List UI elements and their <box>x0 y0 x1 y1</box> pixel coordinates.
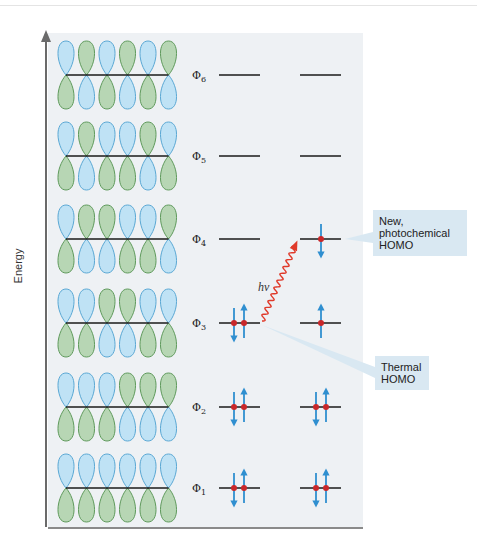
p-orbital-lobe-bottom <box>119 156 135 190</box>
p-orbital-lobe-bottom <box>99 239 115 273</box>
p-orbital-lobe-top <box>99 205 115 239</box>
p-orbital-lobe-top <box>160 289 176 323</box>
p-orbital-lobe-top <box>99 289 115 323</box>
p-orbital-lobe-bottom <box>99 75 115 109</box>
p-orbital-lobe-top <box>99 41 115 75</box>
p-orbital-lobe-bottom <box>140 407 156 441</box>
orbital-label: Φ2 <box>192 401 206 416</box>
p-orbital-lobe-bottom <box>78 156 94 190</box>
callout-line: HOMO <box>381 373 423 385</box>
p-orbital-lobe-bottom <box>58 75 74 109</box>
p-orbital-lobe-top <box>99 122 115 156</box>
p-orbital-lobe-top <box>140 373 156 407</box>
p-orbital-lobe-bottom <box>160 323 176 357</box>
p-orbital-lobe-top <box>78 454 94 488</box>
p-orbital-lobe-top <box>119 454 135 488</box>
callout-leader-thermal <box>262 325 375 378</box>
p-orbital-lobe-top <box>78 41 94 75</box>
p-orbital-lobe-bottom <box>140 156 156 190</box>
p-orbital-lobe-bottom <box>119 323 135 357</box>
p-orbital-lobe-top <box>78 205 94 239</box>
p-orbital-lobe-bottom <box>99 323 115 357</box>
p-orbital-lobe-bottom <box>140 75 156 109</box>
orbital-label: Φ4 <box>192 233 206 248</box>
callout-leader-new <box>345 232 373 243</box>
p-orbital-lobe-top <box>119 41 135 75</box>
p-orbital-lobe-bottom <box>58 323 74 357</box>
p-orbital-lobe-top <box>78 122 94 156</box>
p-orbital-lobe-top <box>160 205 176 239</box>
p-orbital-lobe-top <box>140 289 156 323</box>
orbital-row-1: Φ1 <box>58 454 341 522</box>
p-orbital-lobe-top <box>78 373 94 407</box>
orbital-label: Φ3 <box>192 317 206 332</box>
p-orbital-lobe-top <box>58 122 74 156</box>
callout-line: HOMO <box>379 239 461 251</box>
p-orbital-lobe-bottom <box>160 239 176 273</box>
p-orbital-lobe-bottom <box>119 488 135 522</box>
orbital-row-2: Φ2 <box>58 373 341 441</box>
orbital-row-3: Φ3 <box>58 289 341 357</box>
p-orbital-lobe-top <box>58 373 74 407</box>
p-orbital-lobe-bottom <box>160 407 176 441</box>
orbital-row-4: Φ4 <box>58 205 341 273</box>
callout-line: New, <box>379 215 461 227</box>
p-orbital-lobe-top <box>58 41 74 75</box>
orbital-label: Φ6 <box>192 69 206 84</box>
p-orbital-lobe-bottom <box>119 75 135 109</box>
orbital-row-5: Φ5 <box>58 122 341 190</box>
photon-label: hv <box>258 280 270 294</box>
p-orbital-lobe-bottom <box>99 407 115 441</box>
callout-thermal-homo: Thermal HOMO <box>375 356 429 390</box>
p-orbital-lobe-top <box>119 289 135 323</box>
photon-arrowhead-icon <box>290 241 298 252</box>
orbital-label: Φ1 <box>192 482 206 497</box>
p-orbital-lobe-bottom <box>78 488 94 522</box>
p-orbital-lobe-bottom <box>119 239 135 273</box>
p-orbital-lobe-bottom <box>99 156 115 190</box>
p-orbital-lobe-bottom <box>78 323 94 357</box>
p-orbital-lobe-bottom <box>99 488 115 522</box>
p-orbital-lobe-top <box>58 205 74 239</box>
p-orbital-lobe-top <box>119 205 135 239</box>
p-orbital-lobe-top <box>78 289 94 323</box>
p-orbital-lobe-bottom <box>58 239 74 273</box>
p-orbital-lobe-bottom <box>58 156 74 190</box>
p-orbital-lobe-top <box>160 122 176 156</box>
p-orbital-lobe-bottom <box>78 407 94 441</box>
p-orbital-lobe-top <box>140 122 156 156</box>
p-orbital-lobe-top <box>119 373 135 407</box>
p-orbital-lobe-top <box>140 205 156 239</box>
p-orbital-lobe-bottom <box>78 75 94 109</box>
callout-line: photochemical <box>379 227 461 239</box>
p-orbital-lobe-top <box>140 41 156 75</box>
p-orbital-lobe-bottom <box>160 156 176 190</box>
p-orbital-lobe-top <box>99 454 115 488</box>
p-orbital-lobe-bottom <box>160 75 176 109</box>
p-orbital-lobe-bottom <box>140 488 156 522</box>
p-orbital-lobe-top <box>119 122 135 156</box>
p-orbital-lobe-top <box>58 454 74 488</box>
callout-line: Thermal <box>381 361 423 373</box>
p-orbital-lobe-bottom <box>58 407 74 441</box>
orbital-row-6: Φ6 <box>58 41 341 109</box>
p-orbital-lobe-top <box>99 373 115 407</box>
p-orbital-lobe-bottom <box>119 407 135 441</box>
mo-diagram: Φ6Φ5Φ4Φ3Φ2Φ1hv <box>0 0 477 553</box>
p-orbital-lobe-top <box>160 373 176 407</box>
p-orbital-lobe-bottom <box>58 488 74 522</box>
p-orbital-lobe-top <box>160 41 176 75</box>
p-orbital-lobe-top <box>58 289 74 323</box>
p-orbital-lobe-bottom <box>160 488 176 522</box>
p-orbital-lobe-top <box>160 454 176 488</box>
p-orbital-lobe-top <box>140 454 156 488</box>
p-orbital-lobe-bottom <box>78 239 94 273</box>
callout-new-photochemical-homo: New, photochemical HOMO <box>373 210 467 256</box>
p-orbital-lobe-bottom <box>140 323 156 357</box>
p-orbital-lobe-bottom <box>140 239 156 273</box>
orbital-label: Φ5 <box>192 150 206 165</box>
